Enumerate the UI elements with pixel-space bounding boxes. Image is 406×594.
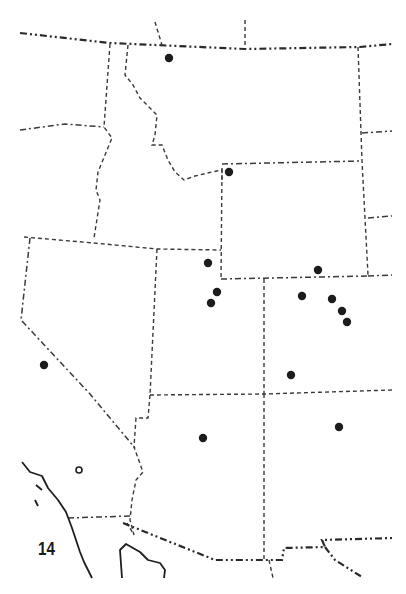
coastline-baja	[120, 544, 165, 578]
open-record-points	[76, 467, 82, 473]
state-border-az-west	[127, 395, 150, 535]
record-points	[40, 54, 351, 442]
border-tick	[155, 22, 162, 45]
border-ca-mexico	[68, 516, 130, 518]
state-border-nd-sd	[362, 131, 392, 133]
figure-number: 14	[38, 538, 55, 560]
border-tick-south	[269, 560, 273, 578]
state-border-wy-south	[221, 276, 368, 279]
state-border-four-corners	[150, 390, 392, 395]
coastline-california	[22, 462, 92, 578]
distribution-map	[0, 0, 406, 594]
state-border-ca-nv	[21, 238, 135, 448]
state-border-wa-or	[20, 124, 104, 130]
border-texas-mexico	[325, 547, 362, 577]
state-border-id-south	[24, 237, 221, 250]
international-border-north	[20, 33, 392, 49]
state-border-id-mt	[125, 45, 222, 180]
border-us-mexico	[123, 523, 392, 560]
state-border-mt-wy	[222, 161, 362, 164]
state-border-sd-ne	[368, 216, 392, 218]
state-border-wy-west	[221, 168, 222, 280]
state-border-mt-nd	[358, 47, 368, 275]
state-border-nv-ut	[150, 249, 157, 395]
island	[36, 485, 42, 490]
state-border-ne-ks	[368, 275, 392, 276]
island	[35, 500, 38, 506]
state-border-wa-id	[94, 44, 112, 238]
